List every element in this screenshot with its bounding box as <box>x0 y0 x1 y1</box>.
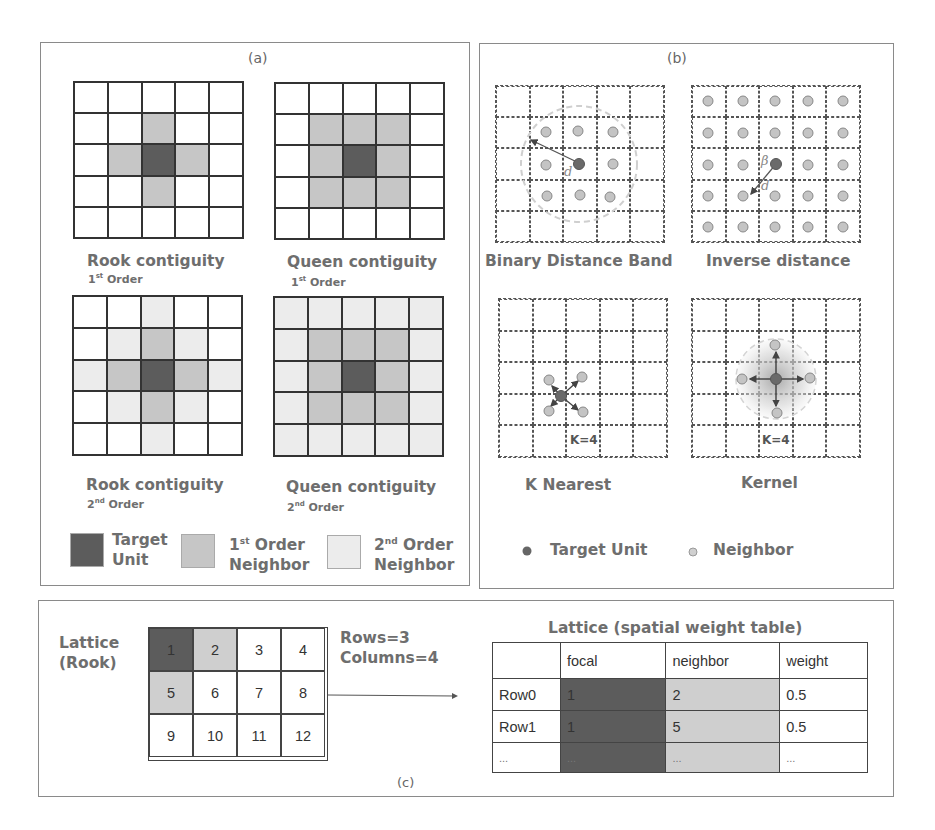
first-order-cell <box>375 361 409 393</box>
grid-cell <box>633 394 667 426</box>
grid-cell <box>692 331 726 363</box>
grid-cell <box>826 425 860 457</box>
grid-cell <box>726 425 760 457</box>
grid-cell <box>600 362 634 394</box>
grid-cell <box>108 113 142 144</box>
second-order-cell <box>409 361 443 393</box>
grid-cell <box>496 86 530 117</box>
first-order-cell <box>309 177 343 208</box>
grid-cell <box>309 208 343 239</box>
grid-cell <box>793 86 827 117</box>
first-order-cell <box>308 392 342 424</box>
kernel-k-label: K=4 <box>762 433 790 447</box>
table-cell: 5 <box>666 711 780 743</box>
grid-cell <box>499 331 533 363</box>
second-order-cell <box>208 360 242 392</box>
lattice-cell: 3 <box>237 628 281 671</box>
grid-cell <box>597 148 631 179</box>
second-order-cell <box>274 392 308 424</box>
first-order-cell <box>142 176 176 207</box>
grid-cell <box>759 394 793 426</box>
grid-cell <box>793 331 827 363</box>
grid-cell <box>496 180 530 211</box>
grid-cell <box>410 177 444 208</box>
grid-cell <box>74 113 108 144</box>
second-order-cell <box>409 329 443 361</box>
grid-cell <box>209 113 243 144</box>
table-cell: ... <box>493 743 561 773</box>
queen-2nd-title: Queen contiguity <box>286 478 436 496</box>
legend-1st-order-text: 1st OrderNeighbor <box>229 531 309 575</box>
grid-cell <box>793 117 827 148</box>
grid-cell <box>275 83 309 114</box>
grid-cell <box>759 211 793 242</box>
table-cell: ... <box>780 743 868 773</box>
grid-cell <box>533 425 567 457</box>
second-order-cell <box>342 297 376 329</box>
legend-target-text: TargetUnit <box>112 530 168 570</box>
grid-cell <box>600 425 634 457</box>
grid-cell <box>410 83 444 114</box>
grid-cell <box>174 423 208 455</box>
grid-cell <box>566 362 600 394</box>
grid-cell <box>376 83 410 114</box>
grid-cell <box>826 299 860 331</box>
grid-cell <box>633 299 667 331</box>
grid-cell <box>726 86 760 117</box>
inverse-distance-grid <box>691 85 861 243</box>
grid-cell <box>600 331 634 363</box>
target-cell <box>142 144 176 175</box>
lattice-cell: 12 <box>281 714 325 757</box>
grid-cell <box>630 86 664 117</box>
first-order-cell <box>343 114 377 145</box>
table-row: ............ <box>493 743 868 773</box>
grid-cell <box>496 211 530 242</box>
rook-2nd-order-grid <box>72 295 243 456</box>
grid-cell <box>275 114 309 145</box>
grid-cell <box>74 144 108 175</box>
grid-cell <box>208 328 242 360</box>
grid-cell <box>563 211 597 242</box>
first-order-cell <box>376 177 410 208</box>
k-nearest-title: K Nearest <box>525 476 611 494</box>
first-order-cell <box>141 328 175 360</box>
grid-cell <box>759 331 793 363</box>
grid-cell <box>533 394 567 426</box>
grid-cell <box>410 114 444 145</box>
second-order-cell <box>141 423 175 455</box>
grid-cell <box>74 176 108 207</box>
grid-cell <box>275 145 309 176</box>
legend-target-unit: Target Unit <box>550 541 647 559</box>
second-order-cell <box>409 424 443 456</box>
legend-target-swatch <box>70 533 104 567</box>
queen-2nd-order-grid <box>273 296 444 457</box>
table-cell <box>493 643 561 679</box>
grid-cell <box>600 394 634 426</box>
grid-cell <box>692 180 726 211</box>
grid-cell <box>826 86 860 117</box>
grid-cell <box>275 208 309 239</box>
grid-cell <box>209 176 243 207</box>
target-cell <box>343 145 377 176</box>
grid-cell <box>175 113 209 144</box>
legend-1st-order-swatch <box>181 534 215 568</box>
grid-cell <box>108 82 142 113</box>
panel-a-label: (a) <box>248 50 268 66</box>
grid-cell <box>563 117 597 148</box>
lattice-cell: 4 <box>281 628 325 671</box>
grid-cell <box>826 148 860 179</box>
grid-cell <box>630 180 664 211</box>
grid-cell <box>108 207 142 238</box>
inverse-distance-title: Inverse distance <box>706 252 850 270</box>
grid-cell <box>759 362 793 394</box>
rook-1st-title: Rook contiguity <box>87 252 225 270</box>
grid-cell <box>726 331 760 363</box>
first-order-cell <box>375 329 409 361</box>
inverse-d-label: d <box>761 178 769 193</box>
second-order-cell <box>409 297 443 329</box>
grid-cell <box>208 391 242 423</box>
grid-cell <box>692 86 726 117</box>
second-order-cell <box>409 392 443 424</box>
lattice-cell: 9 <box>149 714 193 757</box>
spatial-weight-table: focalneighborweightRow0120.5Row1150.5...… <box>492 642 868 773</box>
